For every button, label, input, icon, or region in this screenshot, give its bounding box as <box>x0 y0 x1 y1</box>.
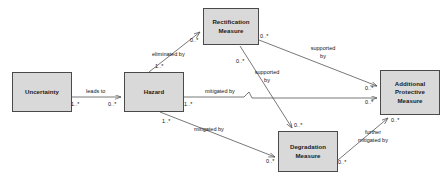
multiplicity-apm-in-from-rectification: 0..* <box>365 85 374 91</box>
multiplicity-hazard-down-to-degradation: 1..* <box>162 118 171 124</box>
class-node-degradation-measure-label: Degradation Measure <box>288 143 328 160</box>
edge-label-mitigated-by-lower: mitigated by <box>194 126 224 134</box>
multiplicity-uncertainty-out: 1..* <box>71 101 80 107</box>
class-node-additional-protective-measure[interactable]: Additional Protective Measure <box>380 70 440 115</box>
class-node-uncertainty[interactable]: Uncertainty <box>12 72 72 112</box>
multiplicity-hazard-in-from-uncertainty: 0..* <box>108 101 117 107</box>
multiplicity-rectification-in-from-hazard: 0..* <box>190 37 199 43</box>
multiplicity-degradation-out-right: 0..* <box>338 159 347 165</box>
multiplicity-degradation-in-from-hazard: 0..* <box>266 158 275 164</box>
class-node-rectification-measure-label: Rectification Measure <box>210 18 251 35</box>
multiplicity-hazard-right-to-apm: 1..* <box>184 101 193 107</box>
multiplicity-degradation-top-in: 0..* <box>294 122 303 128</box>
multiplicity-degradation-in-from-rectification: 0..* <box>236 58 245 64</box>
class-node-additional-protective-measure-label: Additional Protective Measure <box>393 80 427 105</box>
class-node-hazard[interactable]: Hazard <box>124 72 184 112</box>
class-node-hazard-label: Hazard <box>142 88 167 96</box>
class-node-degradation-measure[interactable]: Degradation Measure <box>278 131 338 172</box>
edge-label-supported-by-lower: supported by <box>249 69 285 85</box>
multiplicity-rectification-out-right: 0..* <box>260 33 269 39</box>
multiplicity-apm-in-from-hazard: 0..* <box>365 99 374 105</box>
connector-rectification-supported-by-degradation <box>240 46 292 128</box>
edge-label-mitigated-by-upper: mitigated by <box>205 88 235 96</box>
edge-label-supported-by-upper: supported by <box>305 45 341 61</box>
edge-label-eliminated-by: eliminated by <box>152 51 185 59</box>
class-node-uncertainty-label: Uncertainty <box>23 88 61 96</box>
connector-hazard-mitigated-by-degradation <box>160 112 275 157</box>
uml-class-diagram: Uncertainty Hazard Rectification Measure… <box>0 0 448 188</box>
edge-label-further-mitigated-by: further mitigated by <box>348 129 398 145</box>
class-node-rectification-measure[interactable]: Rectification Measure <box>203 8 259 45</box>
multiplicity-hazard-up-to-rectification: 1..* <box>155 63 164 69</box>
multiplicity-apm-in-from-degradation: 0..* <box>391 117 400 123</box>
edge-label-leads-to: leads to <box>86 88 105 96</box>
